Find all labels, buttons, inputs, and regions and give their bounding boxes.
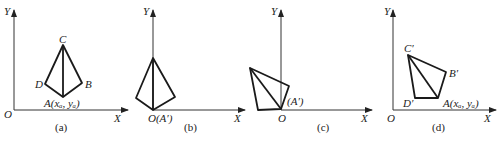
x-axis-label: X: [483, 112, 492, 124]
diagram-canvas: Y O X C D B A(xₐ, yₐ) (a) Y O(A′) X (b) …: [0, 0, 499, 146]
kite-shape: [136, 58, 175, 110]
panel-caption-a: (a): [55, 121, 68, 134]
origin-label: O: [278, 112, 286, 124]
vertex-label-c: C: [59, 33, 67, 45]
y-axis-label: Y: [143, 5, 151, 17]
vertex-label-d: D: [34, 78, 43, 90]
panel-caption-c: (c): [317, 121, 330, 134]
vertex-label-b: B: [85, 78, 92, 90]
vertex-label-b: B′: [449, 67, 459, 79]
x-axis-label: X: [113, 112, 122, 124]
panel-b: Y O(A′) X (b): [136, 5, 245, 134]
vertex-label-a: A(xₐ, yₐ): [442, 97, 479, 110]
y-axis-label: Y: [271, 5, 279, 17]
x-axis-label: X: [233, 112, 242, 124]
vertex-label-d: D′: [402, 97, 414, 109]
vertex-label-a: A(xₐ, yₐ): [43, 97, 80, 110]
panel-caption-d: (d): [432, 121, 445, 134]
kite-shape: [408, 55, 446, 98]
vertex-label-a: (A′): [287, 95, 304, 108]
y-axis-label: Y: [384, 5, 392, 17]
panel-c: Y O (A′) X (c): [250, 5, 372, 134]
panel-a: Y O X C D B A(xₐ, yₐ) (a): [4, 5, 128, 134]
origin-label: O: [387, 112, 395, 124]
y-axis-label: Y: [4, 5, 12, 17]
x-axis-label: X: [360, 112, 369, 124]
panel-d: Y O X C′ B′ D′ A(xₐ, yₐ) (d): [384, 5, 496, 134]
vertex-label-c: C′: [404, 42, 414, 54]
panel-caption-b: (b): [184, 121, 197, 134]
origin-label: O(A′): [148, 112, 173, 125]
transformation-diagram: Y O X C D B A(xₐ, yₐ) (a) Y O(A′) X (b) …: [0, 0, 499, 146]
origin-label: O: [4, 108, 12, 120]
